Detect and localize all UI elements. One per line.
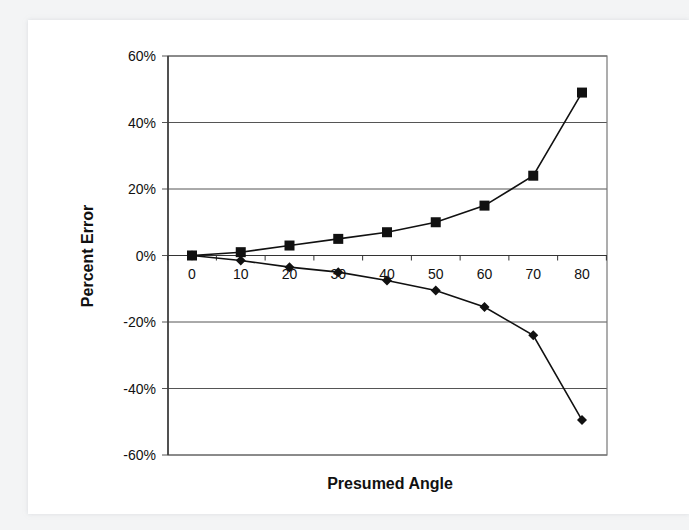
x-tick-label: 0 <box>188 266 196 282</box>
y-tick-label: -20% <box>123 314 156 330</box>
square-marker <box>577 88 587 98</box>
x-tick-label: 60 <box>477 266 493 282</box>
y-tick-label: -60% <box>123 447 156 463</box>
diamond-marker <box>577 415 587 425</box>
square-marker <box>528 171 538 181</box>
x-tick-label: 70 <box>525 266 541 282</box>
line-chart: 60%40%20%0%-20%-40%-60% 0102030405060708… <box>0 0 689 530</box>
x-axis-title: Presumed Angle <box>327 475 453 492</box>
square-marker <box>431 217 441 227</box>
y-tick-label: 20% <box>128 181 156 197</box>
square-marker <box>285 241 295 251</box>
square-marker <box>382 227 392 237</box>
square-marker <box>480 201 490 211</box>
x-tick-label: 80 <box>574 266 590 282</box>
y-tick-label: 0% <box>136 248 156 264</box>
square-marker <box>333 234 343 244</box>
axes <box>168 56 607 455</box>
y-tick-label: -40% <box>123 381 156 397</box>
diamond-marker <box>528 330 538 340</box>
x-tick-label: 50 <box>428 266 444 282</box>
data-series <box>187 88 587 426</box>
diamond-marker <box>480 302 490 312</box>
y-tick-label: 60% <box>128 48 156 64</box>
y-axis-tick-labels: 60%40%20%0%-20%-40%-60% <box>123 48 156 463</box>
y-axis-title: Percent Error <box>79 205 96 307</box>
x-tick-label: 10 <box>233 266 249 282</box>
y-tick-label: 40% <box>128 115 156 131</box>
diamond-marker <box>431 285 441 295</box>
